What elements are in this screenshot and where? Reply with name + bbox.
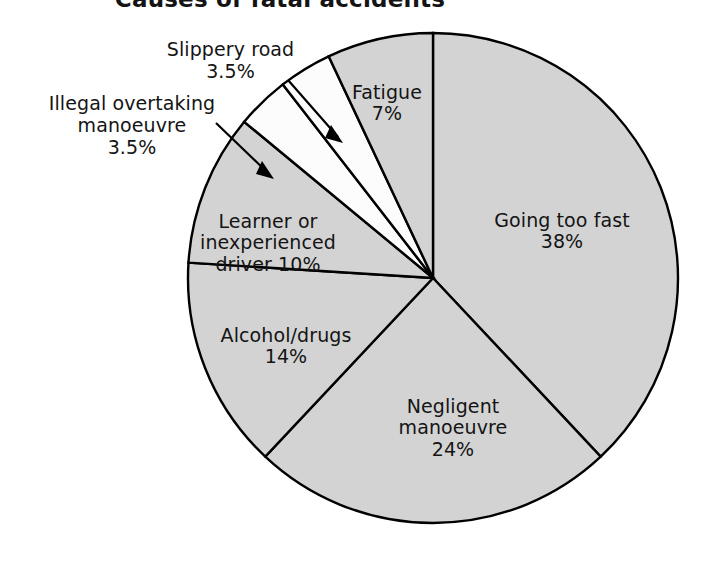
slice-label-negligent-manoeuvre: Negligent manoeuvre 24% [358, 396, 548, 460]
slice-label-going-too-fast: Going too fast 38% [477, 210, 647, 253]
slice-label-learner-or-inexperienced-driver: Learner or inexperienced driver 10% [168, 211, 368, 275]
callout-label-slippery-road: Slippery road 3.5% [143, 39, 318, 83]
slice-label-fatigue: Fatigue 7% [327, 82, 447, 125]
pie-chart-figure: Causes of fatal accidents Going too fast… [0, 0, 724, 561]
callout-label-illegal-overtaking-manoeuvre: Illegal overtaking manoeuvre 3.5% [27, 93, 237, 159]
slice-label-alcohol-drugs: Alcohol/drugs 14% [196, 325, 376, 368]
